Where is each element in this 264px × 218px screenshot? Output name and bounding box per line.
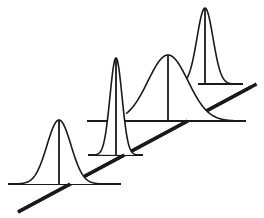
axis-segment	[18, 184, 70, 212]
bell-curve	[126, 55, 236, 121]
bell-curve	[96, 58, 138, 155]
axis-segment	[201, 84, 257, 114]
distribution-diagram	[0, 0, 264, 218]
axis-segment	[132, 121, 188, 151]
bell-curve	[186, 8, 238, 84]
distribution-dist-4	[186, 8, 243, 84]
